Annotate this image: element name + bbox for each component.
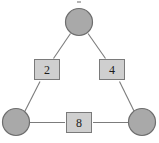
vertex-bottom-right[interactable] (129, 109, 156, 136)
scan-artifact-speck (77, 1, 81, 3)
edge-weight-box-left[interactable]: 2 (34, 59, 60, 80)
edge-weight-label-right: 4 (109, 63, 115, 75)
edge-segment-top-to-weight-2 (54, 34, 71, 59)
edge-segment-top-to-weight-4 (88, 34, 106, 59)
vertex-top[interactable] (66, 9, 93, 36)
edge-weight-box-bottom[interactable]: 8 (66, 112, 92, 133)
edge-segment-weight-2-to-bottom-left (25, 82, 41, 113)
edge-weight-label-bottom: 8 (76, 116, 82, 128)
weighted-graph-figure: 2 4 8 (0, 0, 159, 143)
edge-segment-weight-4-to-bottom-right (120, 82, 135, 113)
edge-weight-box-right[interactable]: 4 (99, 59, 125, 80)
vertex-bottom-left[interactable] (3, 109, 30, 136)
edge-weight-label-left: 2 (44, 63, 50, 75)
